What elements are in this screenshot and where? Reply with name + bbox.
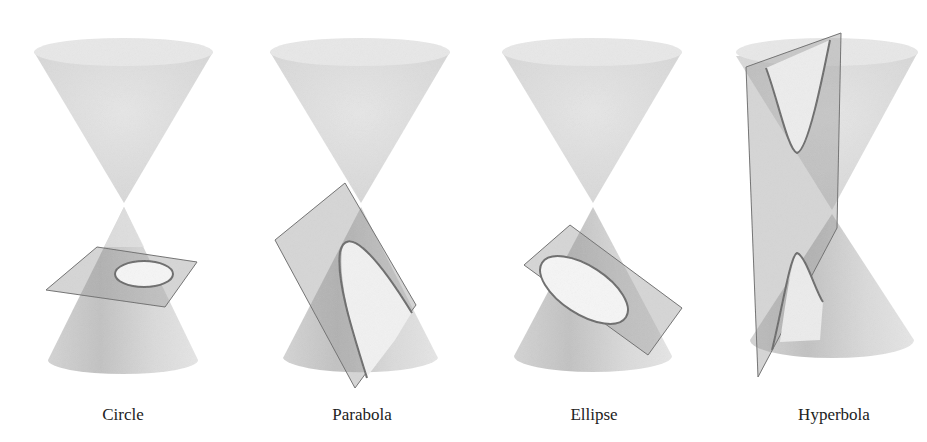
parabola-label: Parabola — [332, 405, 391, 425]
upper-cone — [502, 38, 682, 203]
ellipse-panel — [502, 38, 682, 372]
circle-curve — [115, 261, 173, 287]
conic-sections-figure — [0, 0, 927, 442]
parabola-panel — [270, 38, 450, 388]
circle-panel — [34, 38, 213, 374]
hyperbola-label: Hyperbola — [798, 405, 870, 425]
hyperbola-panel — [736, 33, 918, 377]
ellipse-label: Ellipse — [570, 405, 617, 425]
upper-cone — [34, 38, 213, 203]
upper-cone — [270, 38, 450, 203]
circle-label: Circle — [102, 405, 144, 425]
